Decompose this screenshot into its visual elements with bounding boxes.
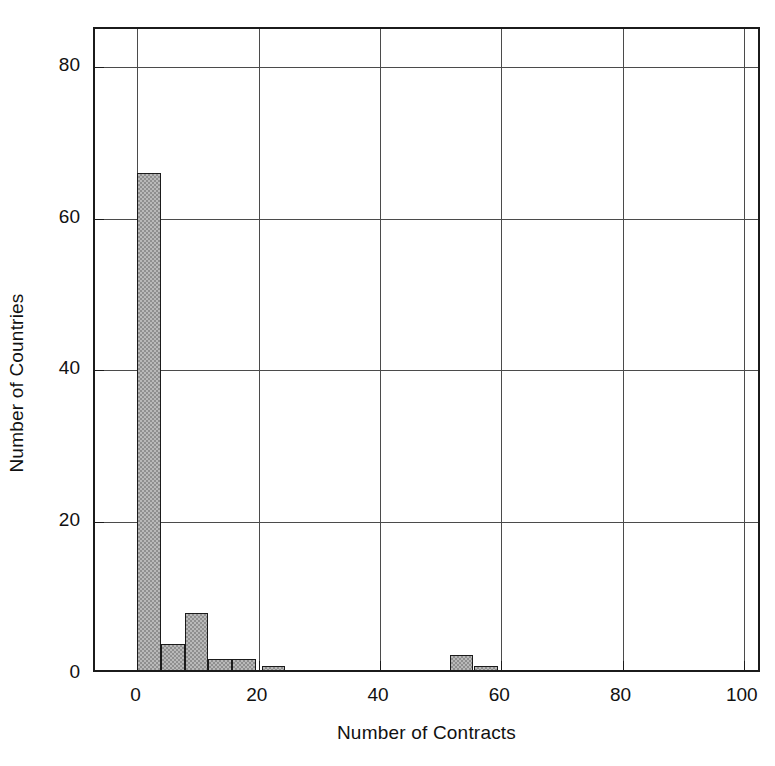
y-tick-mark bbox=[95, 370, 104, 371]
gridline-vertical bbox=[744, 29, 745, 670]
y-tick-mark bbox=[95, 219, 104, 220]
gridline-vertical bbox=[623, 29, 624, 670]
y-tick-label: 20 bbox=[59, 509, 80, 531]
gridline-horizontal bbox=[95, 522, 758, 523]
y-tick-mark bbox=[95, 67, 104, 68]
plot-area bbox=[93, 27, 760, 672]
x-axis-tick-labels: 020406080100 bbox=[93, 684, 760, 710]
x-tick-label: 20 bbox=[246, 684, 267, 706]
x-axis-title-text: Number of Contracts bbox=[337, 722, 516, 743]
x-tick-mark bbox=[501, 661, 502, 670]
histogram-bar bbox=[450, 655, 474, 670]
x-tick-label: 60 bbox=[489, 684, 510, 706]
x-tick-mark bbox=[744, 661, 745, 670]
x-tick-mark bbox=[137, 661, 138, 670]
histogram-figure: Number of Countries 020406080 0204060801… bbox=[0, 0, 775, 766]
x-tick-mark bbox=[380, 661, 381, 670]
y-tick-mark bbox=[95, 522, 104, 523]
plot-inner bbox=[95, 29, 758, 670]
histogram-bar bbox=[474, 666, 498, 670]
x-tick-mark bbox=[259, 661, 260, 670]
gridline-vertical bbox=[259, 29, 260, 670]
x-tick-label: 0 bbox=[130, 684, 141, 706]
y-tick-label: 40 bbox=[59, 357, 80, 379]
gridline-vertical bbox=[380, 29, 381, 670]
gridline-horizontal bbox=[95, 67, 758, 68]
x-tick-label: 100 bbox=[726, 684, 758, 706]
gridline-horizontal bbox=[95, 370, 758, 371]
y-tick-label: 80 bbox=[59, 54, 80, 76]
histogram-bar bbox=[262, 666, 286, 670]
gridline-vertical bbox=[501, 29, 502, 670]
x-tick-mark bbox=[623, 661, 624, 670]
y-axis-tick-labels: 020406080 bbox=[18, 27, 80, 672]
x-axis-title: Number of Contracts bbox=[93, 722, 760, 744]
histogram-bar bbox=[232, 659, 256, 670]
histogram-bar bbox=[161, 644, 185, 670]
x-tick-label: 40 bbox=[367, 684, 388, 706]
x-tick-label: 80 bbox=[610, 684, 631, 706]
histogram-bar bbox=[185, 613, 209, 670]
y-tick-label: 0 bbox=[69, 661, 80, 683]
histogram-bar bbox=[137, 173, 161, 670]
histogram-bar bbox=[208, 659, 232, 670]
gridline-horizontal bbox=[95, 219, 758, 220]
y-tick-label: 60 bbox=[59, 206, 80, 228]
